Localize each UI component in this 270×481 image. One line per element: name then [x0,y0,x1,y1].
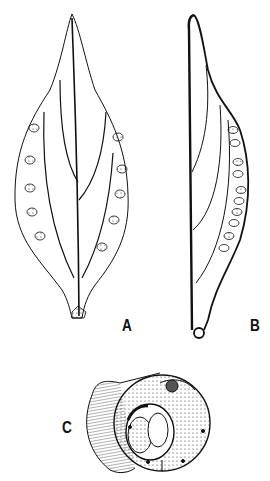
cross-section-c [87,373,210,473]
illustration [0,0,270,481]
leaf-a [15,14,128,318]
leaf-b [189,15,249,338]
label-a: A [122,316,132,336]
label-c: C [62,418,72,438]
label-b: B [250,316,260,336]
